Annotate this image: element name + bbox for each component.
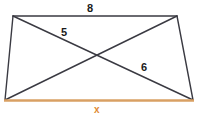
side-left-line	[5, 16, 13, 100]
side-right-line	[177, 16, 193, 100]
edge-label-top: 8	[87, 3, 93, 14]
edge-label-base-unknown: x	[94, 105, 100, 115]
diagonal-upper-left-line	[13, 16, 193, 100]
diagonal-label-lower-right: 6	[141, 62, 147, 73]
quadrilateral-diagram	[0, 0, 201, 119]
geometry-figure: 8 5 6 x	[0, 0, 201, 119]
diagonal-lower-right-line	[5, 16, 177, 100]
diagonal-label-upper-left: 5	[61, 27, 67, 38]
